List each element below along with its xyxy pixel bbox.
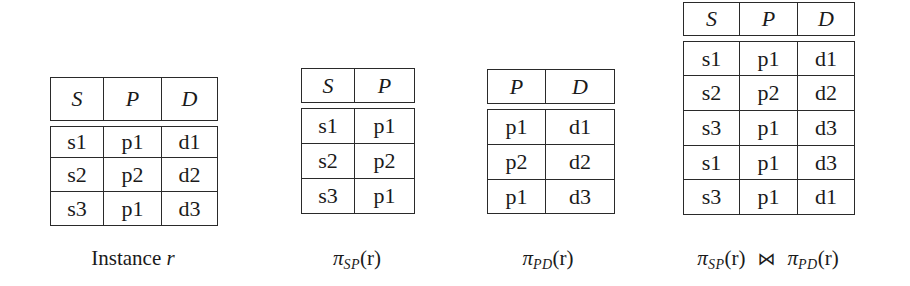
cell: p2 (740, 76, 798, 111)
table-row: s3 p1 d3 (51, 192, 218, 226)
cell: d2 (798, 76, 855, 111)
column-header-s: S (51, 78, 104, 121)
cell: d2 (546, 145, 615, 180)
relation-pi-sp: S P s1 p1 s2 p2 s3 p1 (301, 68, 415, 214)
cell: s1 (302, 109, 355, 144)
data-table: p1 d1 p2 d2 p1 d3 (487, 109, 615, 214)
cell: d3 (162, 192, 218, 226)
header-table: S P D (50, 77, 218, 121)
relation-instance-r: S P D s1 p1 d1 s2 p2 d2 s3 p1 d3 (50, 77, 218, 226)
cell: p1 (740, 180, 798, 215)
cell: d1 (798, 42, 855, 76)
cell: d1 (798, 180, 855, 215)
table-row: p2 d2 (488, 145, 615, 180)
pi-symbol: π (522, 246, 533, 270)
column-header-p: P (488, 70, 546, 104)
cell: s3 (684, 111, 740, 146)
cell: p2 (104, 158, 162, 192)
cell: s1 (51, 127, 104, 158)
header-table: P D (487, 69, 615, 104)
column-header-s: S (684, 3, 740, 36)
projection-argument: (r) (553, 246, 574, 270)
cell: d1 (162, 127, 218, 158)
cell: p1 (488, 110, 546, 145)
projection-attributes-left: SP (708, 257, 725, 272)
column-header-p: P (740, 3, 798, 36)
pi-symbol: π (333, 246, 344, 270)
cell: s3 (684, 180, 740, 215)
projection-attributes: SP (343, 257, 360, 272)
caption-pi-sp: πSP(r) (333, 246, 381, 273)
table-row: s1 p1 d1 (51, 127, 218, 158)
column-header-d: D (798, 3, 855, 36)
table-row: s3 p1 (302, 179, 415, 214)
caption-pi-pd: πPD(r) (522, 246, 573, 273)
projection-argument-left: (r) (724, 246, 745, 270)
column-header-p: P (355, 69, 415, 103)
table-row: p1 d3 (488, 180, 615, 214)
caption-var: r (167, 246, 175, 270)
table-row: s2 p2 d2 (684, 76, 855, 111)
cell: d3 (798, 146, 855, 180)
cell: p1 (740, 111, 798, 146)
caption-text: Instance (91, 246, 161, 270)
column-header-s: S (302, 69, 355, 103)
cell: s2 (51, 158, 104, 192)
column-header-d: D (162, 78, 218, 121)
cell: p1 (740, 146, 798, 180)
table-row: s1 p1 (302, 109, 415, 144)
cell: s1 (684, 42, 740, 76)
natural-join-icon: ⋈ (757, 248, 775, 269)
table-row: s3 p1 d3 (684, 111, 855, 146)
caption-natural-join: πSP(r)⋈πPD(r) (697, 246, 838, 273)
cell: p1 (355, 109, 415, 144)
cell: d1 (546, 110, 615, 145)
cell: s3 (302, 179, 355, 214)
table-row: s1 p1 d3 (684, 146, 855, 180)
cell: p1 (488, 180, 546, 214)
cell: d2 (162, 158, 218, 192)
projection-argument-right: (r) (818, 246, 839, 270)
pi-symbol-right: π (787, 246, 798, 270)
cell: p1 (355, 179, 415, 214)
cell: d3 (798, 111, 855, 146)
projection-attributes: PD (533, 257, 553, 272)
column-header-p: P (104, 78, 162, 121)
table-row: s2 p2 d2 (51, 158, 218, 192)
cell: s2 (684, 76, 740, 111)
relation-natural-join: S P D s1 p1 d1 s2 p2 d2 s3 p1 d3 s1 p1 d… (683, 2, 855, 215)
cell: p1 (740, 42, 798, 76)
cell: d3 (546, 180, 615, 214)
table-row: s3 p1 d1 (684, 180, 855, 215)
caption-instance-r: Instance r (91, 246, 174, 271)
table-row: s1 p1 d1 (684, 42, 855, 76)
table-row: p1 d1 (488, 110, 615, 145)
cell: p2 (355, 144, 415, 179)
projection-attributes-right: PD (798, 257, 818, 272)
projection-argument: (r) (360, 246, 381, 270)
data-table: s1 p1 s2 p2 s3 p1 (301, 108, 415, 214)
cell: p1 (104, 192, 162, 226)
header-table: S P D (683, 2, 855, 36)
data-table: s1 p1 d1 s2 p2 d2 s3 p1 d3 s1 p1 d3 s3 p… (683, 41, 855, 215)
pi-symbol-left: π (697, 246, 708, 270)
cell: p2 (488, 145, 546, 180)
cell: s2 (302, 144, 355, 179)
cell: p1 (104, 127, 162, 158)
column-header-d: D (546, 70, 615, 104)
header-table: S P (301, 68, 415, 103)
relation-pi-pd: P D p1 d1 p2 d2 p1 d3 (487, 69, 615, 214)
data-table: s1 p1 d1 s2 p2 d2 s3 p1 d3 (50, 126, 218, 226)
cell: s3 (51, 192, 104, 226)
cell: s1 (684, 146, 740, 180)
table-row: s2 p2 (302, 144, 415, 179)
